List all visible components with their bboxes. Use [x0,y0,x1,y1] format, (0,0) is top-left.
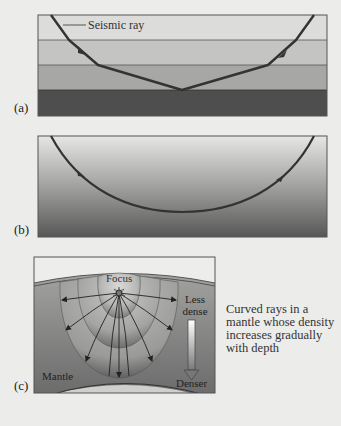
less-dense-line-1: Less [178,293,212,305]
focus-label: Focus [106,272,132,284]
layer-3 [38,65,327,90]
mantle-label: Mantle [42,370,73,382]
panel-a [38,15,327,116]
denser-label: Denser [176,377,207,389]
less-dense-line-2: dense [178,305,212,317]
layer-1 [38,15,327,40]
layer-4 [38,90,327,116]
less-dense-label: Less dense [178,293,212,317]
panel-label-c: (c) [14,378,28,394]
panel-label-a: (a) [14,100,28,116]
caption: Curved rays in a mantle whose density in… [226,303,341,355]
panel-b [38,136,327,237]
gradient-medium [38,136,327,237]
diagram-canvas [0,0,341,426]
seismic-ray-label: Seismic ray [88,18,144,33]
panel-label-b: (b) [14,222,29,238]
